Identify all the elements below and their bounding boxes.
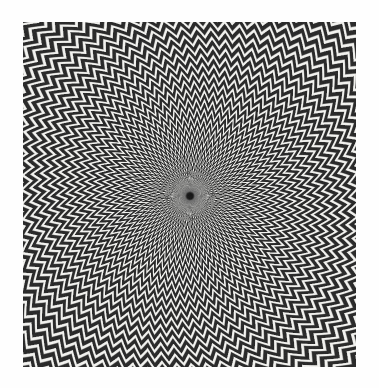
radial-zigzag-pattern	[23, 22, 356, 367]
illusion-figure: Concentric rings of black and white zigz…	[0, 0, 379, 388]
